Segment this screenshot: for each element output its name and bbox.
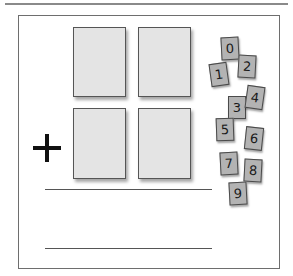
digit-card-8[interactable]: 8 — [243, 159, 262, 183]
digit-card-3[interactable]: 3 — [228, 96, 246, 119]
sum-line — [45, 189, 212, 190]
digit-card-9[interactable]: 9 — [228, 182, 247, 206]
plus-vertical-stroke — [45, 134, 49, 162]
first-addend-tens-slot[interactable] — [73, 27, 126, 97]
digit-card-1[interactable]: 1 — [208, 62, 229, 87]
answer-line[interactable] — [45, 248, 212, 249]
digit-card-5[interactable]: 5 — [216, 118, 235, 142]
digit-card-2[interactable]: 2 — [237, 55, 256, 79]
second-addend-ones-slot[interactable] — [138, 108, 191, 179]
digit-card-0[interactable]: 0 — [220, 37, 239, 61]
top-divider — [5, 3, 288, 5]
math-worksheet: 0 1 2 3 4 5 6 7 8 9 — [0, 0, 293, 276]
plus-icon — [33, 134, 61, 162]
second-addend-tens-slot[interactable] — [73, 108, 126, 179]
digit-card-6[interactable]: 6 — [244, 126, 264, 151]
digit-card-7[interactable]: 7 — [219, 152, 238, 176]
digit-card-4[interactable]: 4 — [244, 85, 265, 110]
first-addend-ones-slot[interactable] — [138, 27, 191, 97]
